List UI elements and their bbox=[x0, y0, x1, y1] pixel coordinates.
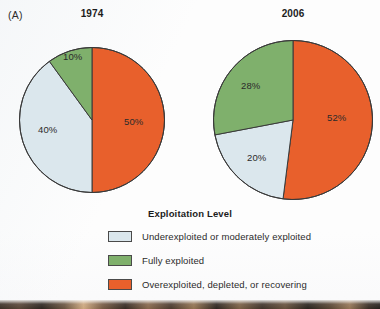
adjacent-photograph-strip bbox=[0, 300, 380, 309]
legend-label-fully-exploited: Overexploited, depleted, or recovering bbox=[142, 279, 307, 290]
pie-1974-label-overexploited: 50% bbox=[124, 116, 143, 127]
overexploited-swatch bbox=[108, 279, 132, 290]
underexploited-swatch bbox=[108, 231, 132, 242]
legend-row-overexploited: Underexploited or moderately exploited bbox=[108, 231, 380, 242]
legend-label-underexploited: Fully exploited bbox=[142, 255, 204, 266]
panel-letter: (A) bbox=[8, 9, 23, 21]
pie-chart-2006 bbox=[213, 40, 373, 200]
legend-title: Exploitation Level bbox=[0, 208, 380, 219]
photograph-fade bbox=[0, 300, 380, 309]
pie-2006-label-overexploited: 52% bbox=[327, 112, 346, 123]
pie-chart-title-2006: 2006 bbox=[253, 8, 333, 19]
fully-exploited-swatch bbox=[108, 255, 132, 266]
pie-chart-title-1974: 1974 bbox=[52, 8, 132, 19]
pie-2006-label-underexploited: 20% bbox=[247, 152, 266, 163]
pie-1974-label-fully-exploited: 10% bbox=[63, 51, 82, 62]
pie-2006-label-fully-exploited: 28% bbox=[241, 80, 260, 91]
legend-label-overexploited: Underexploited or moderately exploited bbox=[142, 231, 311, 242]
pie-chart-2006-svg bbox=[213, 40, 373, 200]
legend-items: Underexploited or moderately exploitedFu… bbox=[0, 231, 380, 290]
legend-row-underexploited: Fully exploited bbox=[108, 255, 380, 266]
figure-panel-a: (A) 1974 2006 50% 40% 10% 52% 20% 28% Ex… bbox=[0, 0, 380, 309]
legend: Exploitation Level Underexploited or mod… bbox=[0, 208, 380, 303]
pie-1974-label-underexploited: 40% bbox=[38, 124, 57, 135]
legend-row-fully-exploited: Overexploited, depleted, or recovering bbox=[108, 279, 380, 290]
